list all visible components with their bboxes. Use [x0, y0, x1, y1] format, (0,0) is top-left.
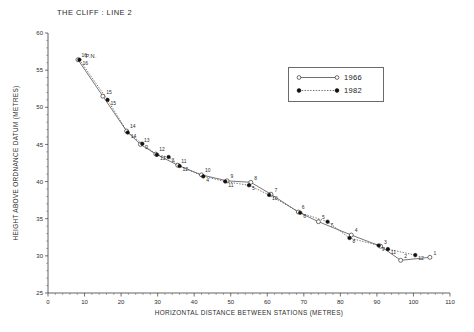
point-label-1982-7: 7	[331, 222, 334, 228]
point-label-1966-6: 6	[302, 204, 305, 210]
x-tick-label: 90	[374, 299, 381, 305]
data-point-1982-12	[178, 164, 182, 168]
point-label-1982-10: 10	[272, 195, 278, 201]
point-label-1982-14: 14	[131, 133, 137, 139]
point-label-1982-6: 6	[303, 213, 306, 219]
point-label-1966-11: 11	[181, 158, 186, 164]
point-label-1982-9: 9	[382, 246, 385, 252]
y-axis-title: HEIGHT ABOVE ORDNANCE DATUM (METRES)	[12, 85, 20, 240]
point-label-1982-15: 15	[111, 100, 117, 106]
data-point-1982-11	[223, 180, 227, 184]
x-tick-label: 70	[300, 299, 307, 305]
point-label-1966-14: 14	[130, 123, 136, 129]
x-tick-label: 50	[227, 299, 234, 305]
point-label-1966-8: 8	[254, 175, 257, 181]
point-label-1982-11b: 11	[391, 249, 396, 255]
chart-axes: 2530354045505560010203040506070809010011…	[36, 30, 455, 305]
point-label-1982-2: 2	[145, 144, 148, 150]
point-label-1982-5: 5	[252, 185, 255, 191]
data-point-1982-13	[155, 153, 159, 157]
point-label-1982-12b: 12	[418, 255, 424, 261]
data-point-1982-3	[167, 155, 171, 159]
legend-swatch-1966	[296, 73, 340, 82]
x-tick-label: 110	[445, 299, 455, 305]
benchmark-annotation: P.N.	[85, 53, 97, 59]
legend-swatch-1982	[296, 86, 340, 95]
x-axis-title: HORIZONTAL DISTANCE BETWEEN STATIONS (ME…	[155, 309, 344, 317]
x-tick-label: 60	[264, 299, 271, 305]
point-label-1966-4: 4	[355, 227, 358, 233]
data-point-1982-15	[106, 98, 110, 102]
data-point-1966-1	[428, 255, 432, 259]
legend-sample-svg-1982	[296, 86, 340, 95]
y-tick-label: 40	[36, 179, 43, 185]
point-label-1982-8: 8	[353, 238, 356, 244]
x-tick-label: 80	[337, 299, 344, 305]
data-point-1982-5	[247, 183, 251, 187]
data-point-1966-15	[101, 94, 105, 98]
y-tick-label: 55	[36, 67, 43, 73]
point-label-1966-2: 2	[404, 253, 407, 259]
data-point-1982-10	[267, 193, 271, 197]
data-point-1982-4	[202, 175, 206, 179]
point-label-1982-3: 3	[172, 157, 175, 163]
point-label-1966-13: 13	[144, 137, 150, 143]
y-tick-label: 35	[36, 216, 43, 222]
data-point-1982-6	[298, 211, 302, 215]
point-label-1966-15: 15	[106, 89, 112, 95]
legend-sample-svg-1966	[296, 73, 340, 82]
point-label-1982-4: 4	[206, 177, 209, 183]
chart-axis-titles: HORIZONTAL DISTANCE BETWEEN STATIONS (ME…	[12, 85, 343, 317]
y-tick-label: 30	[36, 253, 43, 259]
x-tick-label: 30	[154, 299, 161, 305]
y-tick-label: 45	[36, 142, 43, 148]
chart-svg: 2530354045505560010203040506070809010011…	[0, 0, 474, 332]
y-tick-label: 25	[36, 290, 43, 296]
chart-legend: 1966 1982	[288, 67, 384, 102]
x-tick-label: 100	[408, 299, 419, 305]
data-point-1982-8	[348, 236, 352, 240]
point-label-1966-9: 9	[231, 173, 234, 179]
point-label-1966-10: 10	[205, 167, 211, 173]
x-tick-label: 10	[81, 299, 88, 305]
point-label-1966-3: 3	[384, 239, 387, 245]
data-point-1982-14	[126, 131, 130, 135]
data-point-1982-16	[78, 58, 82, 62]
legend-label-1982: 1982	[344, 86, 362, 95]
data-point-1982-9	[377, 244, 381, 248]
x-tick-label: 40	[191, 299, 198, 305]
legend-entry-1982: 1982	[296, 85, 362, 96]
data-point-1966-2	[399, 258, 403, 262]
point-label-1966-1: 1	[433, 250, 436, 256]
chart-plot-area: 2530354045505560010203040506070809010011…	[0, 0, 474, 332]
point-label-1982-13: 13	[160, 155, 166, 161]
point-label-1966-5: 5	[322, 214, 325, 220]
data-point-1966-5	[316, 220, 320, 224]
data-point-1982-12b	[413, 253, 417, 257]
legend-entry-1966: 1966	[296, 72, 362, 83]
legend-label-1966: 1966	[344, 73, 362, 82]
data-point-1982-11b	[386, 247, 390, 251]
x-tick-label: 20	[118, 299, 125, 305]
point-label-1966-12: 12	[159, 146, 165, 152]
point-label-1982-12: 12	[183, 166, 189, 172]
x-tick-label: 0	[46, 299, 50, 305]
y-tick-label: 60	[36, 30, 43, 36]
data-point-1982-7	[326, 220, 330, 224]
point-label-1966-7: 7	[274, 187, 277, 193]
point-label-1982-16: 16	[82, 60, 88, 66]
point-label-1982-11: 11	[228, 182, 233, 188]
y-tick-label: 50	[36, 104, 43, 110]
